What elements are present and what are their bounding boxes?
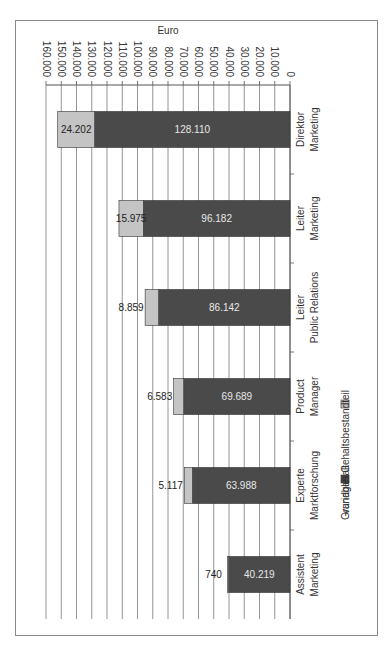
y-axis-title: Euro (157, 25, 179, 36)
y-tick-label: 80.000 (163, 46, 174, 77)
value-label-grundgehalt: 128.110 (175, 124, 211, 135)
value-label-grundgehalt: 63.988 (226, 480, 257, 491)
value-label-variabel: 8.859 (119, 302, 144, 313)
category-label-line1: Assistent (295, 554, 306, 595)
bar-segment-variabel (145, 290, 159, 326)
value-label-variabel: 5.117 (158, 480, 183, 491)
rotated-page: 010.00020.00030.00040.00050.00060.00070.… (0, 0, 384, 651)
value-label-grundgehalt: 86.142 (209, 302, 240, 313)
y-tick-label: 160.000 (41, 41, 52, 78)
category-label-line2: Marketing (309, 197, 320, 241)
category-label-line1: Leiter (295, 294, 306, 320)
stacked-bar-chart: 010.00020.00030.00040.00050.00060.00070.… (0, 0, 384, 651)
value-label-grundgehalt: 40.219 (244, 569, 275, 580)
y-tick-label: 50.000 (208, 46, 219, 77)
y-tick-label: 60.000 (193, 46, 204, 77)
category-label-line2: Marketing (309, 553, 320, 597)
y-tick-label: 130.000 (86, 41, 97, 78)
value-label-variabel: 15.975 (116, 213, 147, 224)
value-label-grundgehalt: 96.182 (201, 213, 232, 224)
value-label-variabel: 6.583 (147, 391, 172, 402)
y-tick-label: 70.000 (178, 46, 189, 77)
category-label-line2: Marktforschung (309, 451, 320, 520)
category-label-line1: Direktor (295, 111, 306, 147)
y-tick-label: 0 (285, 71, 296, 77)
category-label-line1: Leiter (295, 205, 306, 231)
value-label-variabel: 740 (205, 569, 222, 580)
category-label-line1: Product (295, 379, 306, 414)
y-tick-label: 30.000 (239, 46, 250, 77)
y-tick-label: 40.000 (224, 46, 235, 77)
y-tick-label: 120.000 (102, 41, 113, 78)
category-label-line2: Manager (309, 376, 320, 416)
y-tick-label: 20.000 (254, 46, 265, 77)
bar-segment-variabel (174, 379, 184, 415)
category-label-line2: Public Relations (309, 272, 320, 344)
category-label-line1: Experte (295, 468, 306, 503)
value-label-grundgehalt: 69.689 (222, 391, 253, 402)
y-tick-label: 150.000 (56, 41, 67, 78)
value-label-variabel: 24.202 (61, 124, 92, 135)
y-tick-label: 100.000 (132, 41, 143, 78)
y-tick-label: 140.000 (71, 41, 82, 78)
y-tick-label: 90.000 (147, 46, 158, 77)
legend-label-variabel: variabler Gehaltsbestandteil (340, 390, 351, 514)
bar-segment-variabel (228, 557, 229, 593)
y-tick-label: 110.000 (117, 42, 128, 78)
category-label-line2: Marketing (309, 108, 320, 152)
y-tick-label: 10.000 (269, 46, 280, 77)
bar-segment-variabel (185, 468, 193, 504)
